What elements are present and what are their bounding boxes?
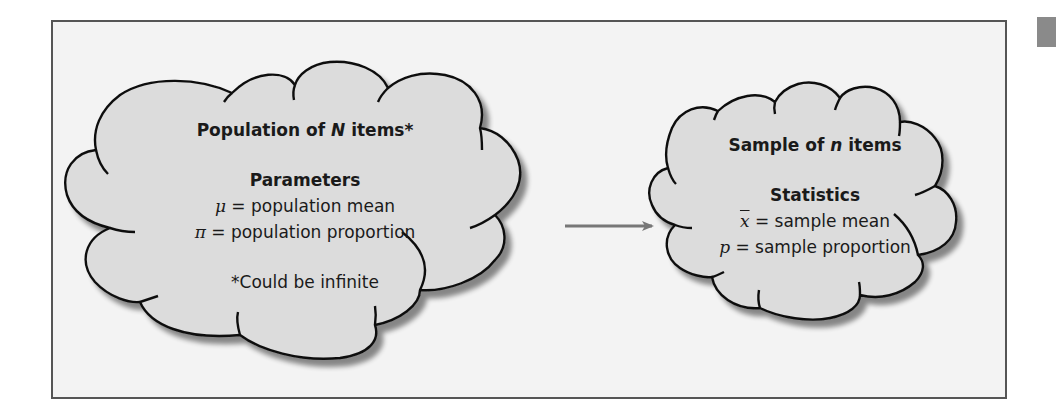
statistics-heading: Statistics: [690, 182, 940, 208]
statistic-mean: x = sample mean: [690, 208, 940, 234]
sample-size-var: n: [830, 135, 842, 155]
parameters-heading: Parameters: [150, 167, 460, 193]
pi-symbol: π: [195, 222, 206, 242]
sample-title: Sample of n items: [690, 132, 940, 158]
population-footnote: *Could be infinite: [150, 269, 460, 295]
x-bar-symbol: x: [740, 211, 750, 231]
parameter-proportion: π = population proportion: [150, 219, 460, 245]
parameter-mean: μ = population mean: [150, 193, 460, 219]
sample-cloud-text: Sample of n items Statistics x = sample …: [690, 132, 940, 260]
population-cloud-text: Population of N items* Parameters μ = po…: [150, 117, 460, 295]
p-symbol: p: [719, 237, 730, 257]
population-title: Population of N items*: [150, 117, 460, 143]
statistic-proportion: p = sample proportion: [690, 234, 940, 260]
population-size-var: N: [331, 120, 345, 140]
mu-symbol: μ: [215, 196, 226, 216]
